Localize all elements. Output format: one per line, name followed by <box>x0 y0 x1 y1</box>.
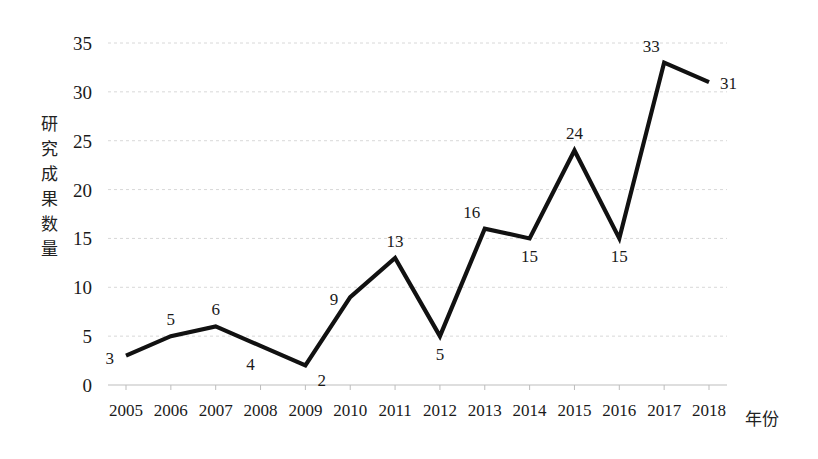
series-line <box>126 63 709 366</box>
data-point-label: 31 <box>720 74 737 93</box>
y-axis-tick-label: 20 <box>73 180 92 201</box>
x-axis-tick-label: 2012 <box>423 401 457 420</box>
data-series-group <box>126 63 709 366</box>
x-axis-tick-label: 2009 <box>288 401 322 420</box>
data-point-label: 9 <box>330 290 339 309</box>
data-point-label: 5 <box>167 310 176 329</box>
line-chart: 研 究 成 果 数 量 年份 05101520253035 2005200620… <box>0 0 818 459</box>
x-axis-tick-label: 2010 <box>333 401 367 420</box>
data-point-label: 3 <box>106 349 115 368</box>
y-axis-tick-label: 15 <box>73 228 92 249</box>
chart-canvas: 05101520253035 2005200620072008200920102… <box>0 0 818 459</box>
x-axis-tick-label: 2017 <box>647 401 682 420</box>
data-point-label: 4 <box>246 355 255 374</box>
y-axis-tick-label: 5 <box>83 326 93 347</box>
data-point-label: 16 <box>463 203 480 222</box>
x-axis-tick-label: 2018 <box>692 401 726 420</box>
x-axis-tick-label: 2011 <box>378 401 411 420</box>
y-axis-tick-label: 35 <box>73 33 92 54</box>
x-axis-tick-label: 2005 <box>109 401 143 420</box>
y-axis-tick-label: 30 <box>73 82 92 103</box>
y-axis-tick-labels: 05101520253035 <box>73 33 92 396</box>
x-axis-tick-label: 2008 <box>244 401 278 420</box>
data-point-label: 13 <box>387 232 404 251</box>
data-point-label: 5 <box>436 345 445 364</box>
x-axis-tickmarks <box>126 385 709 390</box>
x-axis-tick-label: 2006 <box>154 401 188 420</box>
data-point-label: 2 <box>317 371 326 390</box>
x-axis-tick-labels: 2005200620072008200920102011201220132014… <box>109 401 726 420</box>
gridlines-group <box>108 43 727 385</box>
y-axis-tick-label: 10 <box>73 277 92 298</box>
data-point-label: 24 <box>566 124 584 143</box>
data-point-labels: 356429135161524153331 <box>106 37 738 391</box>
data-point-label: 15 <box>521 247 538 266</box>
data-point-label: 15 <box>611 247 628 266</box>
x-axis-tick-label: 2013 <box>468 401 502 420</box>
data-point-label: 6 <box>211 300 220 319</box>
data-point-label: 33 <box>643 37 660 56</box>
x-axis-tick-label: 2015 <box>557 401 591 420</box>
y-axis-tick-label: 25 <box>73 131 92 152</box>
x-axis-tick-label: 2016 <box>602 401 636 420</box>
x-axis-tick-label: 2014 <box>513 401 548 420</box>
y-axis-tick-label: 0 <box>83 375 93 396</box>
x-axis-tick-label: 2007 <box>199 401 234 420</box>
